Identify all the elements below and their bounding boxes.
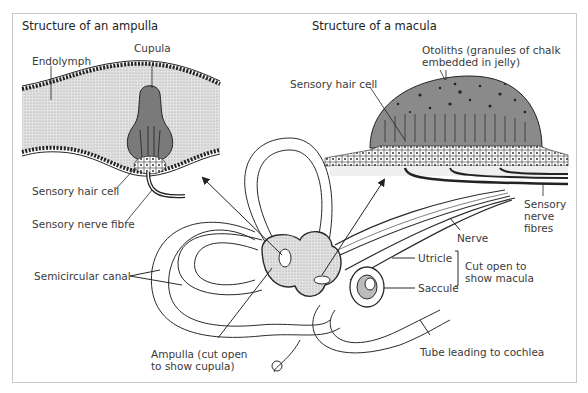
label-utricle: Utricle: [418, 252, 452, 264]
label-nerve: Nerve: [457, 232, 488, 244]
label-otoliths: Otoliths (granules of chalk embedded in …: [422, 44, 561, 68]
label-sensory-nerve-fibre: Sensory nerve fibre: [32, 218, 135, 230]
label-tube-cochlea: Tube leading to cochlea: [420, 346, 544, 358]
label-semicircular-canal: Semicircular canal: [34, 270, 131, 282]
label-saccule: Saccule: [418, 282, 459, 294]
label-ampulla-sensory-hair-cell: Sensory hair cell: [32, 185, 119, 197]
label-cupula: Cupula: [134, 42, 171, 54]
label-macula-sensory-hair-cell: Sensory hair cell: [290, 78, 377, 90]
macula-panel-title: Structure of a macula: [312, 19, 437, 33]
label-endolymph: Endolymph: [32, 55, 91, 67]
ampulla-panel-title: Structure of an ampulla: [22, 19, 158, 33]
label-sensory-nerve-fibres: Sensory nerve fibres: [524, 198, 566, 234]
label-cut-open-macula: Cut open to show macula: [465, 260, 534, 284]
ampulla-illustration: [22, 61, 220, 223]
label-ampulla: Ampulla (cut open to show cupula): [151, 348, 248, 372]
